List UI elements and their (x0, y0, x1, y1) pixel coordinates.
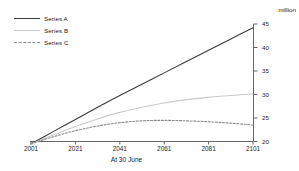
legend-label-series-b: Series B (44, 27, 68, 34)
x-axis-tick-label: 2061 (157, 145, 171, 153)
legend-swatch-series-c (14, 39, 40, 46)
series-line-series-b (31, 94, 253, 144)
x-axis-tick-label: 2041 (113, 145, 127, 153)
chart-legend: Series A Series B Series C (14, 14, 69, 47)
population-projection-chart: Series A Series B Series C million 20253… (0, 0, 299, 171)
y-axis-ticks (254, 24, 258, 142)
series-line-series-c (31, 120, 253, 144)
legend-item-series-c: Series C (14, 38, 69, 47)
x-axis-tick-label: 2081 (201, 145, 215, 153)
y-axis-unit-label: million (278, 6, 296, 13)
x-axis-tick-label: 2001 (24, 145, 38, 153)
y-axis-tick-label: 45 (262, 20, 269, 27)
legend-label-series-a: Series A (44, 15, 68, 22)
legend-item-series-a: Series A (14, 14, 69, 23)
legend-swatch-series-a (14, 15, 40, 22)
y-axis-tick-label: 40 (262, 44, 269, 51)
legend-item-series-b: Series B (14, 26, 69, 35)
legend-label-series-c: Series C (44, 39, 69, 46)
y-axis-tick-label: 25 (262, 114, 269, 121)
y-axis-tick-label: 20 (262, 138, 269, 145)
x-axis-tick-label: 2101 (246, 145, 260, 153)
y-axis-tick-label: 30 (262, 91, 269, 98)
legend-swatch-series-b (14, 27, 40, 34)
x-axis-tick-label: 2021 (68, 145, 82, 153)
y-axis-tick-label: 35 (262, 67, 269, 74)
x-axis-title: At 30 June (0, 156, 253, 163)
